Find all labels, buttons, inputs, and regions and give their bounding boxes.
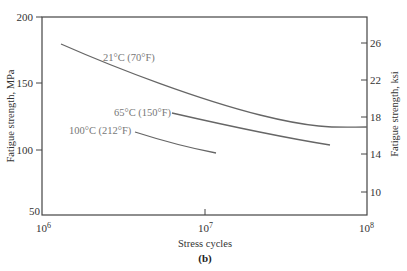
plot-frame [42, 17, 367, 215]
label-21c: 21°C (70°F) [103, 52, 155, 64]
label-65c: 65°C (150°F) [114, 107, 172, 119]
x-tick-1e6: 106 [36, 221, 51, 234]
x-tick-1e8: 108 [359, 221, 374, 234]
y-axis-title-right: Fatigue strength, ksi [389, 71, 400, 157]
y-right-tick-18: 18 [370, 111, 382, 123]
curve-65c [172, 113, 330, 145]
y-tick-150: 150 [17, 77, 34, 89]
y-tick-200: 200 [17, 11, 34, 23]
y-tick-50: 50 [29, 205, 41, 217]
left-y-axis: 200 150 100 50 Fatigue strength, MPa [5, 11, 42, 217]
y-axis-title-left: Fatigue strength, MPa [5, 69, 16, 162]
y-right-tick-10: 10 [370, 186, 382, 198]
label-100c: 100°C (212°F) [69, 125, 132, 137]
y-right-tick-14: 14 [370, 148, 382, 160]
y-tick-100: 100 [17, 144, 34, 156]
x-tick-1e7: 107 [198, 221, 213, 234]
panel-label: (b) [198, 252, 212, 265]
fatigue-chart: 200 150 100 50 Fatigue strength, MPa 26 … [0, 0, 407, 271]
curve-100c [135, 132, 216, 153]
x-axis-title: Stress cycles [178, 238, 232, 249]
y-right-tick-22: 22 [370, 74, 381, 86]
y-right-tick-26: 26 [370, 37, 382, 49]
